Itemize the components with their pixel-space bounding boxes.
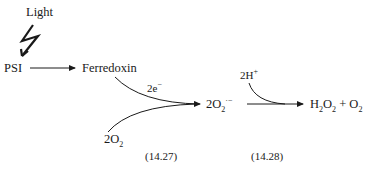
electrons-label: 2e− [147, 83, 162, 94]
ferredoxin-node: Ferredoxin [82, 62, 137, 75]
arrow-oxygen-superoxide [108, 104, 196, 132]
equation-number-1: (14.27) [145, 151, 177, 162]
oxygen-node: 2O2 [104, 133, 123, 146]
equation-number-2: (14.28) [251, 151, 283, 162]
light-label: Light [26, 6, 53, 19]
diagram-canvas [0, 0, 370, 170]
protons-label: 2H+ [240, 70, 258, 81]
superoxide-node: 2O2·− [206, 98, 232, 111]
psi-node: PSI [4, 62, 22, 75]
lightning-bolt-icon [21, 25, 38, 56]
arrow-protons [249, 83, 285, 104]
product-node: H2O2 + O2 [310, 98, 362, 111]
